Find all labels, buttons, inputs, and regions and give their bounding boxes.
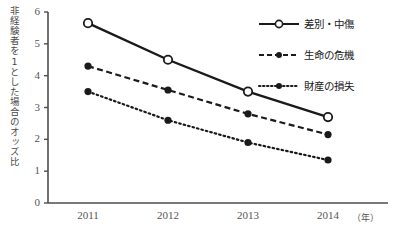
x-tick-label: 2013: [224, 209, 272, 221]
legend-symbol-dashed-filled-circle: [258, 48, 300, 62]
data-point: [164, 117, 171, 124]
data-point: [84, 63, 91, 70]
data-point: [324, 131, 331, 138]
odds-ratio-line-chart: 非経験者を1とした場合のオッズ比 6 5 4 3 2 1 0 2011 2012…: [0, 0, 404, 247]
data-point: [324, 156, 331, 163]
data-point: [84, 19, 92, 27]
x-tick-label: 2011: [64, 209, 112, 221]
data-point: [324, 113, 332, 121]
legend-label: 差別・中傷: [300, 16, 354, 31]
data-point: [84, 88, 91, 95]
legend-symbol-solid-open-circle: [258, 17, 300, 31]
legend-item-discrimination: 差別・中傷: [258, 8, 402, 39]
x-tick-label: 2012: [144, 209, 192, 221]
chart-legend: 差別・中傷 生命の危機 財産の損失: [258, 8, 402, 101]
x-tick-label: 2014: [304, 209, 352, 221]
data-point: [244, 110, 251, 117]
legend-label: 財産の損失: [300, 78, 354, 93]
data-point: [164, 56, 172, 64]
x-axis-unit-label: （年）: [352, 211, 379, 224]
legend-item-property-loss: 財産の損失: [258, 70, 402, 101]
data-point: [244, 87, 252, 95]
legend-label: 生命の危機: [300, 47, 354, 62]
legend-item-life-danger: 生命の危機: [258, 39, 402, 70]
data-point: [244, 139, 251, 146]
data-point: [164, 86, 171, 93]
legend-symbol-dotted-filled-circle: [258, 79, 300, 93]
